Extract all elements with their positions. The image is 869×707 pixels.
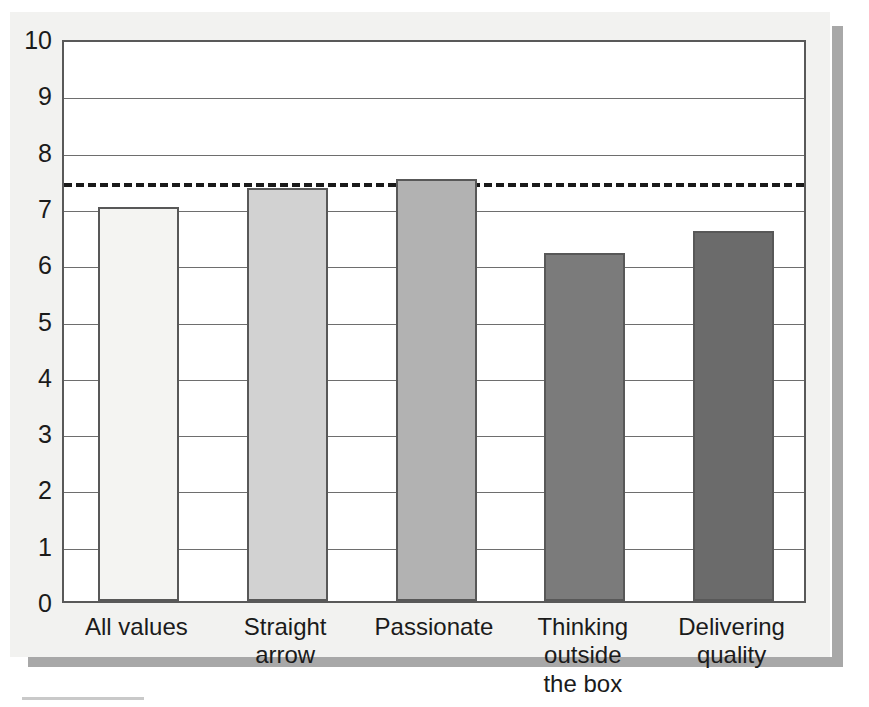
x-label-3: Thinking outsidethe box — [508, 613, 657, 698]
bar-2 — [396, 179, 477, 601]
x-label-4: Deliveringquality — [657, 613, 806, 670]
plot-area — [62, 40, 806, 603]
y-tick-label-10: 10 — [8, 28, 52, 53]
y-tick-label-9: 9 — [8, 84, 52, 109]
y-tick-label-4: 4 — [8, 366, 52, 391]
x-label-line: Thinking outside — [508, 613, 657, 670]
y-tick-label-2: 2 — [8, 478, 52, 503]
y-tick-label-1: 1 — [8, 535, 52, 560]
bar-chart: 012345678910 All valuesStraight arrowPas… — [10, 12, 830, 657]
bar-1 — [247, 188, 328, 601]
y-tick-label-3: 3 — [8, 422, 52, 447]
y-tick-label-8: 8 — [8, 141, 52, 166]
x-label-0: All values — [62, 613, 211, 641]
figure-shadow-right — [832, 26, 843, 662]
screenshot-root: 012345678910 All valuesStraight arrowPas… — [0, 0, 869, 707]
y-tick-label-6: 6 — [8, 253, 52, 278]
x-label-line: Passionate — [360, 613, 509, 641]
bar-series — [64, 42, 804, 601]
x-label-line: Delivering — [657, 613, 806, 641]
x-label-line: the box — [508, 670, 657, 698]
bar-3 — [544, 253, 625, 601]
x-label-1: Straight arrow — [211, 613, 360, 670]
x-label-line: All values — [62, 613, 211, 641]
bar-0 — [98, 207, 179, 601]
bar-4 — [693, 231, 774, 601]
x-label-2: Passionate — [360, 613, 509, 641]
caption-rule — [22, 697, 144, 700]
x-label-line: Straight arrow — [211, 613, 360, 670]
y-tick-label-0: 0 — [8, 591, 52, 616]
y-tick-label-5: 5 — [8, 310, 52, 335]
x-label-line: quality — [657, 641, 806, 669]
y-tick-label-7: 7 — [8, 197, 52, 222]
